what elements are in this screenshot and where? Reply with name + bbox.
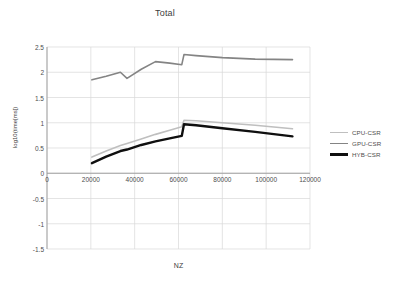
legend-item[interactable]: GPU-CSR xyxy=(330,138,394,149)
y-tick-label: -1.5 xyxy=(33,246,44,253)
plot-area: -1.5-1-0.500.511.522.5 02000040000600008… xyxy=(47,47,310,249)
y-tick-label: 1.5 xyxy=(35,94,44,101)
x-axis-title: NZ xyxy=(47,262,310,269)
legend-line-swatch xyxy=(330,132,348,134)
x-tick-label: 100000 xyxy=(255,176,277,183)
legend-item[interactable]: CPU-CSR xyxy=(330,127,394,138)
y-tick-label: -0.5 xyxy=(33,195,44,202)
y-axis-title: log10(time[ms]) xyxy=(12,107,18,148)
x-tick-label: 40000 xyxy=(126,176,144,183)
legend-line-swatch xyxy=(330,143,348,145)
x-tick-label: 120000 xyxy=(299,176,321,183)
chart-title: Total xyxy=(0,8,330,18)
legend-label: GPU-CSR xyxy=(352,140,381,147)
legend-line-swatch xyxy=(330,153,348,155)
legend-label: CPU-CSR xyxy=(352,129,381,136)
x-tick-label: 20000 xyxy=(82,176,100,183)
x-tick-label: 60000 xyxy=(169,176,187,183)
y-tick-label: -1 xyxy=(38,220,44,227)
chart-legend: CPU-CSRGPU-CSRHYB-CSR xyxy=(330,127,394,160)
grid-lines xyxy=(47,47,310,249)
legend-item[interactable]: HYB-CSR xyxy=(330,149,394,160)
y-tick-label: 2.5 xyxy=(35,44,44,51)
y-tick-label: 2 xyxy=(40,69,44,76)
series-lines xyxy=(92,55,293,164)
y-tick-label: 0.5 xyxy=(35,145,44,152)
legend-label: HYB-CSR xyxy=(352,151,381,158)
chart-container: Total log10(time[ms]) NZ -1.5-1-0.500.51… xyxy=(0,0,396,287)
y-tick-label: 1 xyxy=(40,119,44,126)
x-tick-label: 0 xyxy=(45,176,49,183)
y-tick-label: 0 xyxy=(40,170,44,177)
x-tick-label: 80000 xyxy=(213,176,231,183)
plot-canvas xyxy=(47,47,310,249)
